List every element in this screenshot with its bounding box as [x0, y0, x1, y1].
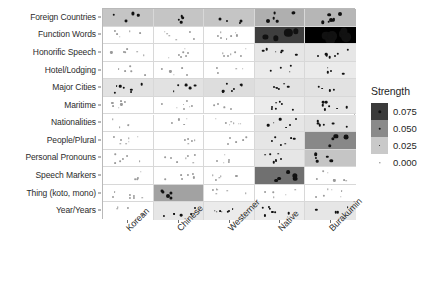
heatmap-point — [215, 179, 217, 181]
heatmap-point — [334, 55, 336, 57]
heatmap-point — [212, 175, 213, 176]
heatmap-point — [110, 51, 112, 53]
heatmap-point — [280, 158, 282, 160]
heatmap-point — [184, 48, 185, 49]
heatmap-point — [287, 170, 291, 174]
legend-item: 0.075 — [371, 103, 426, 120]
heatmap-point — [223, 162, 224, 163]
heatmap-point — [280, 51, 282, 53]
heatmap-point — [327, 13, 331, 17]
heatmap-point — [331, 189, 332, 190]
heatmap-point — [190, 105, 192, 107]
heatmap-point — [271, 140, 273, 142]
heatmap-point — [216, 66, 218, 68]
legend-label: 0.075 — [393, 106, 417, 117]
heatmap-point — [266, 48, 269, 51]
heatmap-point — [279, 118, 282, 121]
heatmap-point — [278, 88, 280, 90]
heatmap-point — [129, 197, 131, 199]
heatmap-point — [295, 118, 297, 120]
heatmap-point — [273, 12, 276, 15]
heatmap-point — [275, 108, 277, 110]
heatmap-cell — [255, 167, 306, 185]
legend-point-icon — [379, 162, 380, 163]
heatmap-point — [185, 158, 186, 159]
heatmap-point — [185, 55, 187, 57]
heatmap-point — [217, 35, 219, 37]
heatmap-point — [324, 108, 326, 110]
heatmap-point — [295, 54, 297, 56]
heatmap-point — [183, 104, 185, 106]
heatmap-point — [161, 103, 163, 105]
heatmap-point — [347, 49, 349, 51]
heatmap-point — [178, 84, 180, 86]
heatmap-point — [273, 86, 275, 88]
heatmap-point — [342, 72, 344, 74]
heatmap-point — [317, 55, 319, 57]
heatmap-point — [293, 138, 296, 141]
heatmap-point — [275, 102, 277, 104]
heatmap-point — [130, 71, 131, 72]
heatmap-point — [287, 86, 289, 88]
heatmap-point — [119, 160, 121, 162]
heatmap-point — [189, 30, 191, 32]
heatmap-point — [141, 83, 144, 86]
heatmap-point — [176, 107, 177, 108]
heatmap-cell — [103, 62, 154, 80]
legend-swatch — [371, 154, 388, 171]
heatmap-point — [161, 68, 163, 70]
heatmap-cell — [204, 97, 255, 115]
heatmap-point — [325, 53, 328, 56]
heatmap-point — [187, 138, 189, 140]
heatmap-point — [191, 140, 193, 142]
heatmap-point — [222, 90, 225, 93]
heatmap-point — [186, 118, 187, 119]
heatmap-point — [236, 34, 238, 36]
heatmap-point — [225, 122, 227, 124]
heatmap-point — [120, 100, 122, 102]
heatmap-point — [128, 137, 129, 138]
legend-title: Strength — [371, 85, 426, 97]
heatmap-cell — [204, 9, 255, 27]
y-axis-tick-label: Personal Pronouns — [25, 152, 96, 162]
heatmap-point — [166, 33, 168, 35]
heatmap-point — [331, 137, 334, 140]
legend-item: 0.025 — [371, 137, 426, 154]
heatmap-point — [233, 88, 235, 90]
heatmap-point — [166, 194, 170, 198]
heatmap-point — [235, 141, 237, 143]
heatmap-point — [327, 67, 329, 69]
heatmap-point — [124, 70, 126, 72]
heatmap-cell — [204, 167, 255, 185]
heatmap-point — [264, 214, 266, 216]
heatmap-point — [173, 90, 175, 92]
heatmap-point — [192, 176, 194, 178]
heatmap-point — [114, 162, 116, 164]
heatmap-point — [213, 104, 215, 106]
heatmap-cell — [103, 79, 154, 97]
heatmap-point — [289, 65, 291, 67]
heatmap-point — [316, 178, 318, 180]
heatmap-cell — [204, 62, 255, 80]
heatmap-panel — [102, 8, 355, 219]
heatmap-point — [217, 102, 219, 104]
heatmap-point — [120, 143, 121, 144]
heatmap-point — [329, 89, 331, 91]
heatmap-cell — [154, 185, 205, 203]
heatmap-point — [275, 51, 277, 53]
y-axis-tick — [98, 69, 101, 70]
heatmap-point — [285, 127, 287, 129]
heatmap-point — [180, 174, 182, 176]
heatmap-point — [194, 139, 196, 141]
heatmap-point — [262, 206, 264, 208]
heatmap-point — [315, 209, 317, 211]
heatmap-cell — [103, 27, 154, 45]
heatmap-point — [272, 17, 275, 20]
legend-item: 0.000 — [371, 154, 426, 171]
heatmap-point — [114, 30, 116, 32]
y-axis-tick-label: Foreign Countries — [30, 12, 96, 22]
heatmap-cell — [103, 115, 154, 133]
heatmap-point — [187, 174, 189, 176]
heatmap-cell — [255, 132, 306, 150]
heatmap-point — [275, 136, 277, 138]
